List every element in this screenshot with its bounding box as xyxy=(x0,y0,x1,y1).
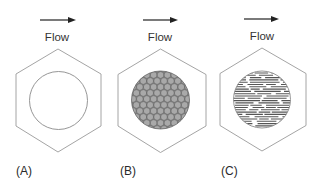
flow-arrow-icon xyxy=(143,17,178,23)
flow-arrow-icon xyxy=(244,16,279,22)
flow-label-b: Flow xyxy=(148,32,172,44)
panel-label-a: (A) xyxy=(16,165,32,177)
flow-arrow-icon xyxy=(40,17,76,23)
empty-channel-circle xyxy=(30,72,88,130)
figure-canvas xyxy=(0,0,319,193)
panel-label-b: (B) xyxy=(120,165,136,177)
flow-label-a: Flow xyxy=(45,32,69,44)
packed-spheres-fill xyxy=(119,66,198,133)
fiber-fill xyxy=(230,73,319,126)
figure: Flow Flow Flow (A) (B) (C) xyxy=(0,0,319,193)
hexagon-housing xyxy=(16,49,101,152)
hexagon-housing xyxy=(220,48,306,151)
flow-label-c: Flow xyxy=(250,31,274,43)
panel-label-c: (C) xyxy=(221,165,238,177)
